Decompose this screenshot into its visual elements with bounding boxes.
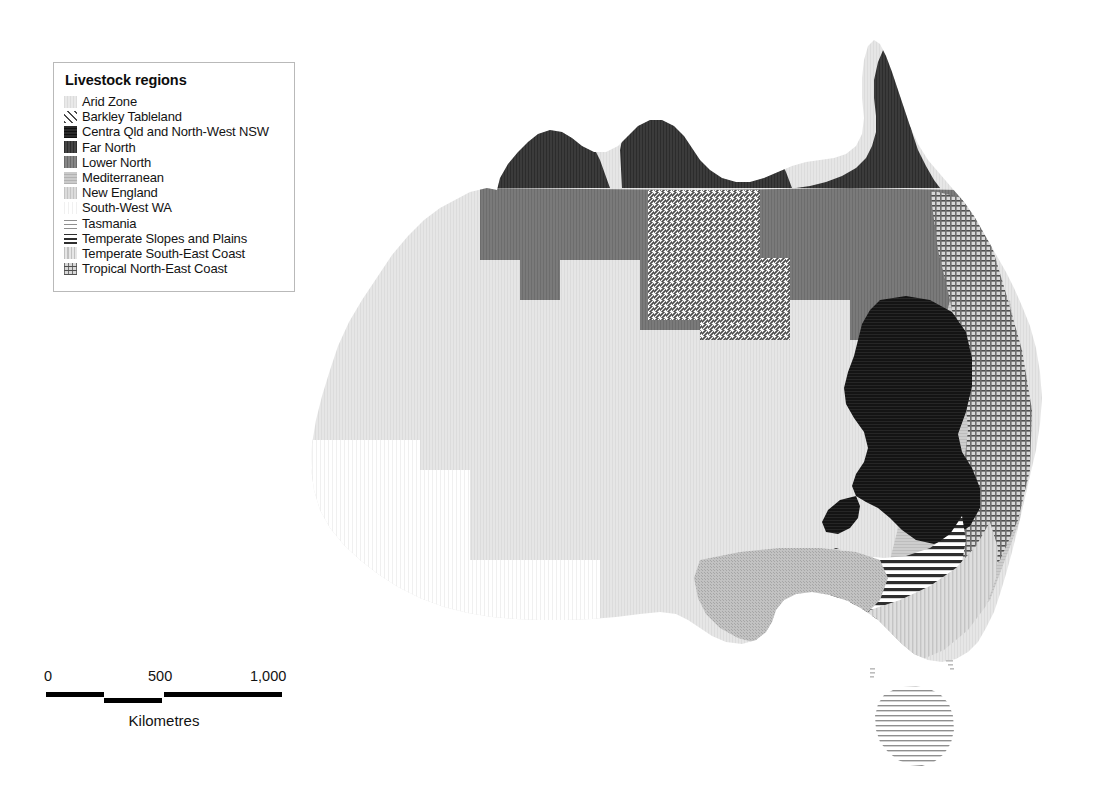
legend-swatch-arid-zone xyxy=(64,96,77,108)
legend-label-temperate-south-east-coast: Temperate South-East Coast xyxy=(82,246,245,261)
legend-swatch-barkley-tableland xyxy=(64,111,77,123)
legend-label-far-north: Far North xyxy=(82,140,136,155)
legend-label-new-england: New England xyxy=(82,185,158,200)
legend-item-far-north[interactable]: Far North xyxy=(64,140,284,155)
scale-tick-1000: 1,000 xyxy=(250,668,286,684)
legend-item-tasmania[interactable]: Tasmania xyxy=(64,216,284,231)
scale-tick-0: 0 xyxy=(44,668,52,684)
map-regions xyxy=(290,30,1080,780)
legend-swatch-tasmania xyxy=(64,217,77,229)
legend-swatch-temperate-south-east-coast xyxy=(64,247,77,259)
scale-bar-graphic xyxy=(44,692,284,706)
legend-item-central-qld-north-west-nsw[interactable]: Centra Qld and North-West NSW xyxy=(64,124,284,139)
legend-panel: Livestock regions Arid Zone Barkley Tabl… xyxy=(53,62,295,292)
legend-title: Livestock regions xyxy=(65,72,284,88)
offshore-islands xyxy=(870,660,954,678)
region-tasmania xyxy=(860,680,980,780)
legend-label-central-qld-north-west-nsw: Centra Qld and North-West NSW xyxy=(82,124,269,139)
legend-label-barkley-tableland: Barkley Tableland xyxy=(82,109,182,124)
legend-item-arid-zone[interactable]: Arid Zone xyxy=(64,94,284,109)
legend-label-tasmania: Tasmania xyxy=(82,216,136,231)
legend-item-south-west-wa[interactable]: South-West WA xyxy=(64,200,284,215)
scale-bar-caption: Kilometres xyxy=(44,712,284,729)
legend-item-mediterranean[interactable]: Mediterranean xyxy=(64,170,284,185)
legend-swatch-central-qld-north-west-nsw xyxy=(64,126,77,138)
legend-label-lower-north: Lower North xyxy=(82,155,151,170)
legend-swatch-south-west-wa xyxy=(64,202,77,214)
legend-swatch-far-north xyxy=(64,141,77,153)
legend-swatch-mediterranean xyxy=(64,172,77,184)
scale-tick-500: 500 xyxy=(148,668,172,684)
legend-label-arid-zone: Arid Zone xyxy=(82,94,137,109)
legend-label-tropical-north-east-coast: Tropical North-East Coast xyxy=(82,261,227,276)
legend-item-temperate-slopes-and-plains[interactable]: Temperate Slopes and Plains xyxy=(64,231,284,246)
legend-item-barkley-tableland[interactable]: Barkley Tableland xyxy=(64,109,284,124)
legend-label-temperate-slopes-and-plains: Temperate Slopes and Plains xyxy=(82,231,247,246)
legend-item-temperate-south-east-coast[interactable]: Temperate South-East Coast xyxy=(64,246,284,261)
legend-swatch-new-england xyxy=(64,187,77,199)
legend-item-new-england[interactable]: New England xyxy=(64,185,284,200)
legend-item-tropical-north-east-coast[interactable]: Tropical North-East Coast xyxy=(64,261,284,276)
scale-bar: 0 500 1,000 Kilometres xyxy=(44,668,304,738)
scale-segment-500-1000 xyxy=(164,692,282,697)
legend-label-south-west-wa: South-West WA xyxy=(82,200,172,215)
legend-label-mediterranean: Mediterranean xyxy=(82,170,164,185)
scale-segment-250-500 xyxy=(104,698,162,703)
legend-swatch-temperate-slopes-and-plains xyxy=(64,232,77,244)
legend-item-lower-north[interactable]: Lower North xyxy=(64,155,284,170)
scale-tick-labels: 0 500 1,000 xyxy=(44,668,304,688)
legend-swatch-lower-north xyxy=(64,156,77,168)
legend-swatch-tropical-north-east-coast xyxy=(64,263,77,275)
scale-segment-0-250 xyxy=(46,692,104,697)
